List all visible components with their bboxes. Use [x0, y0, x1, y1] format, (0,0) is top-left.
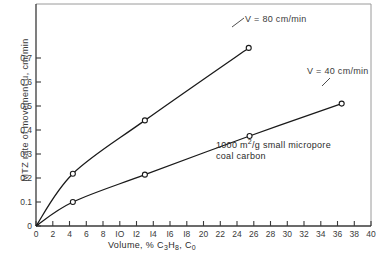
x-axis-label-prefix: Volume, % C — [108, 240, 164, 250]
svg-text:IO: IO — [115, 229, 124, 239]
svg-text:0.1: 0.1 — [20, 197, 32, 207]
svg-text:I4: I4 — [150, 229, 157, 239]
leader-line-v80 — [232, 18, 244, 27]
svg-text:I8: I8 — [183, 229, 190, 239]
x-axis-ticks — [36, 221, 371, 226]
x-axis-label: Volume, % C3H8, C0 — [108, 240, 196, 251]
series-label-v80: V = 80 cm/min — [245, 14, 307, 24]
svg-text:0: 0 — [27, 221, 32, 231]
data-point-marker — [142, 118, 147, 123]
data-point-marker — [142, 172, 147, 177]
sample-annotation-line2: coal carbon — [216, 151, 331, 162]
svg-text:28: 28 — [266, 229, 276, 239]
svg-text:I2: I2 — [133, 229, 140, 239]
y-axis-ticks — [36, 58, 41, 226]
leader-line-v40 — [322, 78, 330, 86]
annotation-prefix: 1000 m — [216, 140, 248, 150]
svg-text:24: 24 — [232, 229, 242, 239]
data-point-marker — [246, 45, 251, 50]
svg-text:4: 4 — [67, 229, 72, 239]
svg-text:40: 40 — [366, 229, 376, 239]
svg-text:20: 20 — [199, 229, 209, 239]
y-axis-label-text: MTZ rate of movement u, cm/min — [20, 38, 30, 181]
annotation-rest: /g small micropore — [252, 140, 331, 150]
svg-text:30: 30 — [283, 229, 293, 239]
svg-text:26: 26 — [249, 229, 259, 239]
series-line-v40 — [36, 104, 342, 226]
svg-text:36: 36 — [333, 229, 343, 239]
svg-text:0: 0 — [34, 229, 39, 239]
svg-text:2: 2 — [50, 229, 55, 239]
svg-text:22: 22 — [216, 229, 226, 239]
x-tick-labels: 0 2 4 6 8 IO I2 I4 I6 I8 20 22 24 26 28 … — [34, 229, 376, 239]
svg-text:32: 32 — [299, 229, 309, 239]
svg-text:38: 38 — [350, 229, 360, 239]
data-point-marker — [70, 200, 75, 205]
svg-text:I6: I6 — [166, 229, 173, 239]
x-axis-label-sub-0: 0 — [192, 244, 196, 251]
sample-annotation: 1000 m2/g small micropore coal carbon — [216, 136, 331, 162]
x-axis-label-suffix: , C — [179, 240, 192, 250]
x-axis-label-h: H — [168, 240, 175, 250]
svg-text:6: 6 — [84, 229, 89, 239]
svg-text:34: 34 — [316, 229, 326, 239]
svg-text:8: 8 — [101, 229, 106, 239]
chart-canvas: 0 0.1 0.2 0.3 0.4 0.5 0.6 0.7 — [0, 0, 386, 259]
data-point-marker — [70, 171, 75, 176]
sample-annotation-line1: 1000 m2/g small micropore — [216, 136, 331, 151]
series-label-v40: V = 40 cm/min — [307, 66, 369, 76]
data-point-marker — [339, 101, 344, 106]
y-axis-label: MTZ rate of movement u, cm/min — [20, 30, 30, 190]
